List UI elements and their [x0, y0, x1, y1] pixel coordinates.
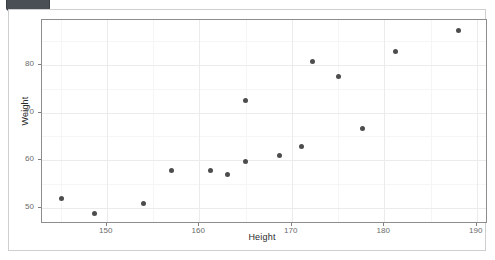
data-point: [336, 74, 341, 79]
y-tick-label: 60: [0, 154, 38, 163]
y-tick-mark: [38, 207, 41, 208]
y-tick-mark: [38, 112, 41, 113]
gridline-major-horizontal: [42, 160, 486, 161]
data-point: [310, 59, 315, 64]
gridline-major-vertical: [384, 20, 385, 222]
x-tick-label: 180: [363, 226, 403, 235]
data-point: [360, 126, 365, 131]
x-tick-label: 190: [456, 226, 495, 235]
x-tick-label: 170: [271, 226, 311, 235]
data-point: [393, 49, 398, 54]
y-tick-label: 80: [0, 59, 38, 68]
gridline-major-horizontal: [42, 65, 486, 66]
gridline-major-horizontal: [42, 113, 486, 114]
gridline-minor-horizontal: [42, 41, 486, 42]
y-tick-label: 70: [0, 107, 38, 116]
gridline-minor-vertical: [431, 20, 432, 222]
gridline-major-vertical: [477, 20, 478, 222]
data-point: [169, 168, 174, 173]
data-point: [225, 172, 230, 177]
data-point: [299, 144, 304, 149]
y-tick-label: 50: [0, 202, 38, 211]
gridline-minor-vertical: [61, 20, 62, 222]
gridline-minor-horizontal: [42, 136, 486, 137]
data-point: [243, 159, 248, 164]
gridline-minor-vertical: [246, 20, 247, 222]
gridline-major-vertical: [107, 20, 108, 222]
data-point: [208, 168, 213, 173]
data-point: [277, 153, 282, 158]
gridline-minor-vertical: [153, 20, 154, 222]
scatter-plot-figure: Weight Height 50607080150160170180190: [9, 10, 487, 252]
data-point: [456, 28, 461, 33]
data-point: [92, 211, 97, 216]
gridline-minor-horizontal: [42, 89, 486, 90]
x-tick-label: 160: [178, 226, 218, 235]
gridline-major-vertical: [199, 20, 200, 222]
plot-panel: [41, 19, 487, 223]
gridline-major-horizontal: [42, 208, 486, 209]
x-tick-label: 150: [86, 226, 126, 235]
gridline-major-vertical: [292, 20, 293, 222]
chart-card: Weight Height 50607080150160170180190: [8, 9, 486, 251]
data-point: [59, 196, 64, 201]
data-point: [141, 201, 146, 206]
gridline-minor-vertical: [338, 20, 339, 222]
gridline-minor-horizontal: [42, 184, 486, 185]
data-point: [243, 98, 248, 103]
y-tick-mark: [38, 64, 41, 65]
y-tick-mark: [38, 159, 41, 160]
